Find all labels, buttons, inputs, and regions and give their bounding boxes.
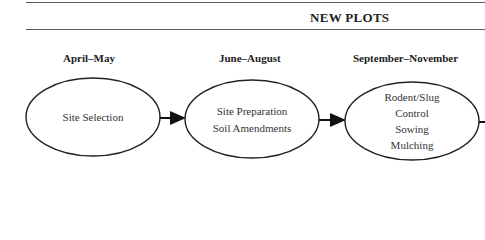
step-site-preparation: Site Preparation bbox=[185, 104, 319, 119]
step-sowing: Sowing bbox=[345, 121, 479, 137]
step-group-site-preparation: Site Preparation Soil Amendments bbox=[185, 104, 319, 136]
step-mulching: Mulching bbox=[345, 137, 479, 153]
step-group-rodent-control: Rodent/Slug Control Sowing Mulching bbox=[345, 89, 479, 153]
step-control: Control bbox=[345, 105, 479, 121]
step-site-selection: Site Selection bbox=[26, 110, 160, 125]
step-rodent-slug: Rodent/Slug bbox=[345, 89, 479, 105]
step-soil-amendments: Soil Amendments bbox=[185, 121, 319, 136]
